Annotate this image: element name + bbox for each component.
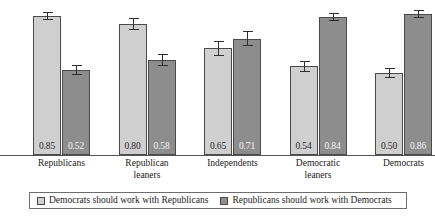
error-bar-cap-top	[329, 13, 339, 14]
error-bar-cap-top	[43, 12, 53, 13]
legend-swatch-icon-series-0	[37, 197, 45, 205]
error-bar	[162, 54, 163, 65]
error-bar-cap-bottom	[214, 55, 224, 56]
x-axis-tick-label: Republicans	[13, 158, 110, 170]
error-bar-cap-bottom	[158, 65, 168, 66]
x-axis-tick-label: Republicanleaners	[99, 158, 196, 181]
bar-value-label: 0.58	[149, 141, 175, 152]
legend-label-series-1: Republicans should work with Democrats	[232, 195, 391, 206]
bar: 0.86	[404, 14, 432, 155]
error-bar	[76, 65, 77, 75]
bar-value-label: 0.65	[205, 141, 231, 152]
error-bar-cap-top	[385, 68, 395, 69]
error-bar-cap-top	[414, 10, 424, 11]
error-bar	[304, 61, 305, 72]
legend-entry-democrats-work-with-republicans: Democrats should work with Republicans	[37, 195, 208, 206]
bar-group: 0.800.58	[119, 0, 176, 155]
error-bar-cap-top	[214, 41, 224, 42]
bar-value-label: 0.84	[320, 141, 346, 152]
bar: 0.71	[233, 39, 261, 155]
error-bar	[418, 10, 419, 18]
bar-value-label: 0.54	[291, 141, 317, 152]
error-bar-cap-top	[243, 31, 253, 32]
error-bar-cap-bottom	[129, 29, 139, 30]
bar-group: 0.540.84	[290, 0, 347, 155]
bar-value-label: 0.85	[34, 141, 60, 152]
x-axis-tick-labels: RepublicansRepublicanleanersIndependents…	[0, 158, 435, 192]
bar: 0.50	[375, 73, 403, 155]
tick-label-line: Independents	[184, 158, 281, 170]
error-bar	[133, 18, 134, 29]
bar: 0.84	[319, 17, 347, 155]
error-bar	[389, 68, 390, 78]
bar-value-label: 0.86	[405, 141, 431, 152]
error-bar-cap-bottom	[243, 45, 253, 46]
bar-group: 0.850.52	[33, 0, 90, 155]
bar: 0.54	[290, 66, 318, 155]
legend-label-series-0: Democrats should work with Republicans	[49, 195, 208, 206]
error-bar	[47, 12, 48, 20]
x-axis-tick-label: Independents	[184, 158, 281, 170]
bar: 0.65	[204, 48, 232, 155]
plot-area: 0.850.520.800.580.650.710.540.840.500.86	[0, 0, 435, 155]
bar: 0.58	[148, 60, 176, 155]
error-bar	[247, 31, 248, 46]
error-bar-cap-bottom	[414, 17, 424, 18]
bar-value-label: 0.50	[376, 141, 402, 152]
tick-label-line: Democrats	[355, 158, 435, 170]
tick-label-line: Democratic	[270, 158, 367, 170]
error-bar-cap-bottom	[43, 19, 53, 20]
grouped-bar-chart: 0.850.520.800.580.650.710.540.840.500.86…	[0, 0, 435, 217]
chart-legend: Democrats should work with Republicans R…	[29, 192, 407, 209]
error-bar-cap-top	[72, 65, 82, 66]
error-bar-cap-bottom	[385, 77, 395, 78]
x-axis-line	[0, 155, 435, 156]
bar-value-label: 0.80	[120, 141, 146, 152]
bar-value-label: 0.71	[234, 141, 260, 152]
bar: 0.52	[62, 70, 90, 155]
error-bar-cap-bottom	[72, 74, 82, 75]
error-bar	[218, 41, 219, 56]
legend-swatch-icon-series-1	[220, 197, 228, 205]
x-axis-tick-label: Democraticleaners	[270, 158, 367, 181]
error-bar-cap-top	[129, 18, 139, 19]
x-axis-tick-label: Democrats	[355, 158, 435, 170]
tick-label-line: leaners	[270, 170, 367, 182]
bar-group: 0.500.86	[375, 0, 432, 155]
tick-label-line: Republicans	[13, 158, 110, 170]
error-bar-cap-top	[300, 61, 310, 62]
legend-entry-republicans-work-with-democrats: Republicans should work with Democrats	[220, 195, 391, 206]
error-bar	[333, 13, 334, 21]
bar-value-label: 0.52	[63, 141, 89, 152]
bar: 0.80	[119, 24, 147, 155]
bar-group: 0.650.71	[204, 0, 261, 155]
bar: 0.85	[33, 16, 61, 155]
error-bar-cap-bottom	[300, 71, 310, 72]
error-bar-cap-bottom	[329, 20, 339, 21]
tick-label-line: leaners	[99, 170, 196, 182]
tick-label-line: Republican	[99, 158, 196, 170]
error-bar-cap-top	[158, 54, 168, 55]
